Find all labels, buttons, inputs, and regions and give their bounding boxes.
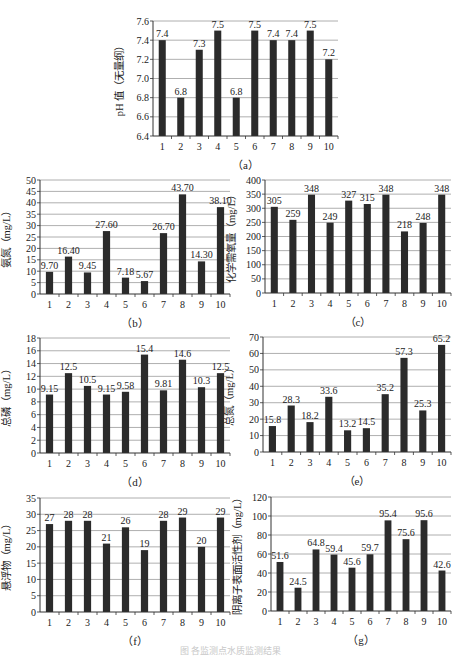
bar (270, 40, 277, 136)
bar-value-label: 75.6 (397, 527, 415, 538)
x-tick-label: 3 (314, 616, 319, 627)
x-tick-label: 10 (216, 299, 226, 310)
y-tick-label: 120 (252, 492, 267, 503)
x-tick-label: 8 (180, 458, 185, 469)
chart-caption: （d） (121, 476, 149, 488)
x-tick-label: 2 (289, 457, 294, 468)
bar-value-label: 9.81 (155, 378, 173, 389)
bar (325, 59, 332, 136)
bar (307, 31, 314, 136)
bar-value-label: 95.4 (379, 508, 397, 519)
y-tick-label: 70 (249, 332, 259, 343)
bar-value-label: 9.45 (79, 260, 97, 271)
bar-value-label: 9.70 (41, 260, 59, 271)
y-tick-label: 200 (246, 231, 261, 242)
bar-value-label: 259 (285, 208, 300, 219)
bar (331, 555, 338, 611)
bar (103, 544, 110, 612)
y-tick-label: 0 (262, 606, 267, 617)
x-tick-label: 4 (328, 298, 333, 309)
bar (177, 98, 184, 136)
y-tick-label: 300 (246, 203, 261, 214)
y-tick-label: 0 (31, 448, 36, 459)
y-axis-label: 悬浮物（mg/L） (0, 519, 12, 592)
bar (344, 430, 351, 452)
bar-value-label: 19 (140, 538, 150, 549)
x-tick-label: 7 (161, 617, 166, 628)
x-tick-label: 8 (402, 298, 407, 309)
bar-value-label: 249 (323, 211, 338, 222)
y-tick-label: 60 (249, 348, 259, 359)
bar-value-label: 14.6 (174, 348, 192, 359)
y-tick-label: 4 (31, 422, 36, 433)
bar-value-label: 43.70 (171, 182, 194, 193)
bar-value-label: 28 (83, 509, 93, 520)
bar-value-label: 9.15 (98, 383, 116, 394)
x-tick-label: 4 (326, 457, 331, 468)
y-tick-label: 20 (249, 414, 259, 425)
bar (313, 549, 320, 611)
y-tick-label: 25 (26, 525, 36, 536)
bar-value-label: 26.70 (152, 221, 175, 232)
x-tick-label: 6 (365, 298, 370, 309)
bar (159, 40, 166, 136)
y-tick-label: 80 (257, 530, 267, 541)
chart-a: 6.46.66.87.07.27.47.67.416.827.337.546.8… (113, 16, 338, 172)
bar-value-label: 9.15 (41, 383, 59, 394)
bar (160, 390, 167, 453)
x-tick-label: 3 (85, 299, 90, 310)
bar (419, 410, 426, 452)
y-tick-label: 2 (31, 435, 36, 446)
y-tick-label: 14 (26, 358, 36, 369)
bar-value-label: 327 (341, 189, 356, 200)
bar (367, 554, 374, 611)
y-tick-label: 45 (26, 186, 36, 197)
x-tick-label: 10 (437, 616, 447, 627)
x-tick-label: 6 (368, 616, 373, 627)
chart-caption: （e） (344, 475, 371, 487)
y-tick-label: 400 (246, 175, 261, 186)
bar-value-label: 7.4 (156, 28, 169, 39)
bar (403, 539, 410, 611)
x-tick-label: 1 (270, 457, 275, 468)
bar-value-label: 9.58 (117, 380, 135, 391)
y-tick-label: 7.0 (137, 73, 150, 84)
bar-value-label: 35.2 (376, 382, 394, 393)
bar (217, 518, 224, 612)
y-tick-label: 7.4 (137, 35, 150, 46)
bar (439, 571, 446, 611)
bar (103, 395, 110, 453)
x-tick-label: 10 (216, 617, 226, 628)
x-tick-label: 7 (383, 457, 388, 468)
chart-g: 02040608010012051.6124.5264.8359.4445.65… (231, 492, 451, 647)
bar-value-label: 14.30 (190, 249, 213, 260)
bar-value-label: 7.2 (323, 47, 336, 58)
bar (400, 358, 407, 452)
chart-caption: （c） (345, 316, 372, 328)
bar-value-label: 26 (121, 515, 131, 526)
bar (122, 392, 129, 453)
x-tick-label: 8 (404, 616, 409, 627)
chart-f: 0510152025303527128228321426519628729820… (0, 493, 230, 648)
y-tick-label: 35 (26, 493, 36, 504)
x-tick-label: 3 (197, 141, 202, 152)
bar-value-label: 315 (360, 192, 375, 203)
bar (382, 394, 389, 452)
bar-value-label: 7.3 (193, 38, 206, 49)
bar (363, 428, 370, 452)
x-tick-label: 4 (215, 141, 220, 152)
bar (349, 568, 356, 611)
y-tick-label: 40 (26, 197, 36, 208)
x-tick-label: 3 (85, 458, 90, 469)
bar (122, 527, 129, 612)
bar-value-label: 6.8 (230, 86, 243, 97)
x-tick-label: 1 (272, 298, 277, 309)
x-tick-label: 9 (421, 298, 426, 309)
figure-footer-caption: 图 各监测点水质监测结果 (0, 644, 461, 657)
bar (277, 562, 284, 611)
x-tick-label: 5 (123, 458, 128, 469)
y-tick-label: 20 (26, 541, 36, 552)
bar (421, 520, 428, 611)
bar (141, 550, 148, 612)
bar (288, 406, 295, 452)
